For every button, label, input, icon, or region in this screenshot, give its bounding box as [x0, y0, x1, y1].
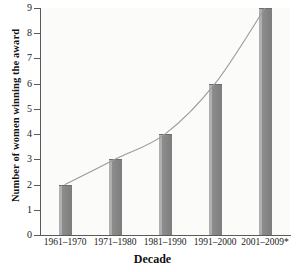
x-axis-title: Decade [0, 252, 305, 267]
chart-figure: 0123456789 Number of women winning the a… [0, 0, 305, 272]
y-axis-tick [34, 134, 40, 135]
bar [109, 159, 122, 235]
y-axis-tick [34, 84, 40, 85]
y-axis-tick [34, 185, 40, 186]
y-axis-tick [34, 210, 40, 211]
y-axis-tick [34, 235, 40, 236]
y-axis-title: Number of women winning the award [10, 6, 21, 226]
y-axis-tick [34, 58, 40, 59]
y-axis-tick-label: 0 [10, 230, 32, 240]
bar [59, 185, 72, 235]
bar [259, 8, 272, 235]
y-axis-tick [34, 33, 40, 34]
y-axis-tick [34, 8, 40, 9]
x-axis-line [40, 235, 291, 236]
y-axis-tick [34, 159, 40, 160]
bar [159, 134, 172, 235]
bar [209, 84, 222, 235]
x-axis-tick-label: 2001–2009* [233, 237, 297, 247]
y-axis-line [40, 8, 41, 236]
y-axis-tick [34, 109, 40, 110]
